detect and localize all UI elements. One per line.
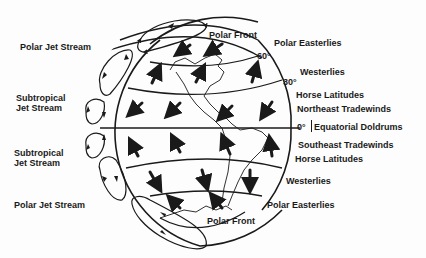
label-westerlies-top: Westerlies (300, 67, 345, 77)
label-northeast-tradewinds: Northeast Tradewinds (297, 104, 391, 114)
label-horse-latitudes-top: Horse Latitudes (296, 90, 364, 100)
wind-arrows (132, 44, 272, 208)
label-polar-jet-stream-top: Polar Jet Stream (20, 42, 91, 52)
wind-belt-diagram: Polar Jet Stream Subtropical Jet Stream … (0, 0, 426, 258)
label-lat-60: 60° (257, 51, 271, 61)
label-subtropical-jet-bottom-2: Jet Stream (14, 158, 60, 168)
label-polar-easterlies-bottom: Polar Easterlies (267, 200, 335, 210)
label-westerlies-bottom: Westerlies (286, 176, 331, 186)
jet-stream-loops (86, 20, 207, 249)
jet-stream-arrowheads (86, 23, 174, 235)
label-subtropical-jet-top-2: Jet Stream (16, 103, 62, 113)
label-southeast-tradewinds: Southeast Tradewinds (298, 140, 394, 150)
label-polar-jet-stream-bottom: Polar Jet Stream (14, 200, 85, 210)
label-equatorial-doldrums: Equatorial Doldrums (314, 122, 403, 132)
label-horse-latitudes-bottom: Horse Latitudes (295, 154, 363, 164)
label-lat-0: 0° (297, 122, 306, 132)
label-polar-front-top: Polar Front (209, 30, 257, 40)
label-polar-easterlies-top: Polar Easterlies (274, 38, 342, 48)
label-polar-front-bottom: Polar Front (207, 216, 255, 226)
label-lat-30: 30° (283, 77, 297, 87)
equator-tick (311, 120, 312, 132)
label-subtropical-jet-bottom-1: Subtropical (14, 148, 64, 158)
label-subtropical-jet-top-1: Subtropical (16, 93, 66, 103)
